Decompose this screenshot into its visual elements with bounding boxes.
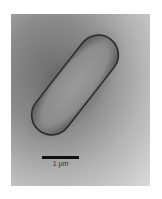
scale-bar: [42, 156, 79, 159]
scale-bar-label: 1 µm: [42, 160, 79, 167]
micrograph-panel: 1 µm: [11, 14, 150, 186]
bacterium-cell: [11, 14, 150, 186]
